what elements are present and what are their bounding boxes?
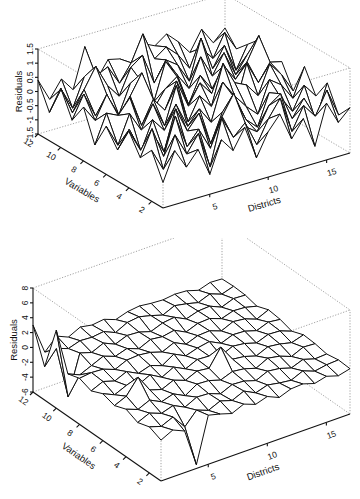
residuals-tick-label: 4 <box>20 315 30 320</box>
districts-axis-label: Districts <box>246 194 282 214</box>
variables-tick-label: 10 <box>45 149 58 163</box>
variables-tick-label: 8 <box>69 164 78 175</box>
residuals-tick-label: -1 <box>25 116 35 124</box>
variables-tick-label: 2 <box>135 476 145 487</box>
districts-tick-label: 5 <box>209 471 217 482</box>
variables-ticks: 24681012 <box>22 134 152 215</box>
residuals-tick-label: 6 <box>20 300 30 305</box>
districts-tick-label: 5 <box>211 201 219 212</box>
residuals-ticks: -1.5-1-0.500.511.5 <box>25 43 38 142</box>
top-surface-canvas: -1.5-1-0.500.511.5Residuals24681012Varia… <box>0 0 360 250</box>
bottom-surface-plot: -6-4-202468Residuals24681012Variables510… <box>0 238 360 499</box>
top-surface-plot: -1.5-1-0.500.511.5Residuals24681012Varia… <box>0 0 360 250</box>
residuals-tick-label: -0.5 <box>25 98 35 113</box>
variables-tick-label: 8 <box>65 427 75 438</box>
residuals-tick-label: 2 <box>20 330 30 335</box>
residuals-tick-label: 8 <box>20 285 30 290</box>
residuals-axis-label: Residuals <box>8 319 19 361</box>
residuals-tick-label: 1.5 <box>25 43 35 55</box>
variables-tick-label: 6 <box>89 444 99 455</box>
residuals-tick-label: 0 <box>25 89 35 94</box>
districts-tick-label: 10 <box>266 449 279 462</box>
variables-tick-label: 10 <box>40 410 54 424</box>
residuals-tick-label: 0.5 <box>25 71 35 83</box>
variables-tick-label: 4 <box>115 191 124 202</box>
districts-axis-label: Districts <box>245 461 281 483</box>
variables-tick-label: 6 <box>92 177 101 188</box>
residuals-tick-label: 1 <box>25 61 35 66</box>
residuals-tick-label: 0 <box>20 345 30 350</box>
bottom-surface-canvas: -6-4-202468Residuals24681012Variables510… <box>0 238 360 499</box>
districts-tick-label: 15 <box>325 428 338 441</box>
variables-tick-label: 2 <box>138 204 147 215</box>
residuals-axis-label: Residuals <box>13 70 24 112</box>
variables-tick-label: 4 <box>112 460 122 471</box>
districts-tick-label: 15 <box>326 166 338 178</box>
residual-surface-mesh <box>33 279 350 465</box>
residuals-ticks: -6-4-202468 <box>20 285 33 395</box>
residuals-tick-label: -2 <box>20 358 30 366</box>
residual-surface-mesh <box>38 28 350 183</box>
residuals-tick-label: -4 <box>20 373 30 381</box>
